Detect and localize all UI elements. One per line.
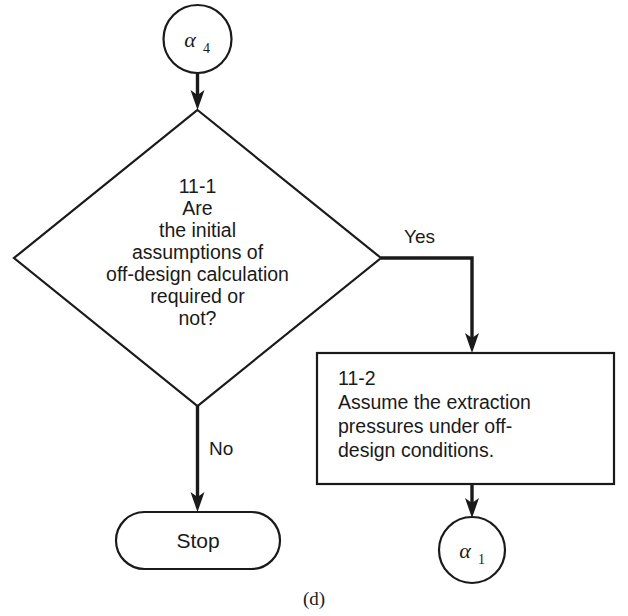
figure-caption: (d)	[303, 588, 325, 610]
process-line-1: Assume the extraction	[338, 391, 531, 413]
decision-line-4: off-design calculation	[106, 263, 289, 285]
flowchart-svg: α 4 11-1 Are the initial assumptions of …	[0, 0, 628, 616]
connector-alpha1-subscript: 1	[478, 552, 485, 567]
connector-circle-alpha1-shape	[439, 517, 505, 583]
decision-line-2: the initial	[159, 219, 236, 241]
node-connector-alpha1[interactable]: α 1	[439, 517, 505, 583]
edge-decision-no: No	[191, 406, 234, 512]
process-line-2: pressures under off-	[338, 415, 512, 437]
edge-label-yes: Yes	[404, 226, 435, 247]
edge-process-to-alpha1	[465, 484, 479, 518]
process-line-0: 11-2	[338, 367, 376, 389]
edge-label-no: No	[209, 438, 233, 459]
node-connector-alpha4[interactable]: α 4	[164, 5, 232, 73]
edge-alpha4-to-decision	[191, 73, 205, 110]
node-terminator-stop[interactable]: Stop	[116, 512, 280, 569]
edge-decision-yes: Yes	[381, 226, 479, 353]
process-line-3: design conditions.	[338, 439, 494, 461]
connector-alpha4-subscript: 4	[203, 41, 210, 56]
decision-line-1: Are	[182, 197, 212, 219]
decision-line-6: not?	[179, 307, 217, 329]
flowchart-canvas: α 4 11-1 Are the initial assumptions of …	[0, 0, 628, 616]
node-process-11-2[interactable]: 11-2 Assume the extraction pressures und…	[317, 353, 614, 484]
connector-alpha4-symbol: α	[184, 27, 196, 52]
connector-alpha1-symbol: α	[459, 538, 471, 563]
terminator-label: Stop	[176, 529, 219, 552]
decision-line-0: 11-1	[179, 175, 217, 197]
connector-circle-shape	[164, 5, 232, 73]
edge-yes-path	[381, 258, 472, 340]
decision-line-3: assumptions of	[132, 241, 264, 263]
decision-line-5: required or	[150, 285, 245, 307]
